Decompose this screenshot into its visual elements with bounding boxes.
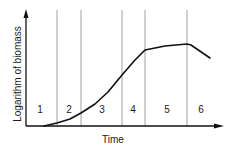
phase-label-6: 6 <box>198 104 204 115</box>
phase-label-2: 2 <box>66 104 72 115</box>
chart-svg: 123456 Time Logarithm of biomass <box>0 0 233 147</box>
y-axis-arrow-icon <box>24 9 29 18</box>
x-axis-label: Time <box>102 134 124 145</box>
phase-label-1: 1 <box>37 104 43 115</box>
x-axis-arrow-icon <box>214 124 224 129</box>
phase-label-4: 4 <box>130 104 136 115</box>
phase-labels: 123456 <box>37 104 204 115</box>
growth-curve-diagram: 123456 Time Logarithm of biomass <box>0 0 233 147</box>
phase-label-3: 3 <box>99 104 105 115</box>
y-axis-label: Logarithm of biomass <box>12 26 23 122</box>
phase-label-5: 5 <box>164 104 170 115</box>
